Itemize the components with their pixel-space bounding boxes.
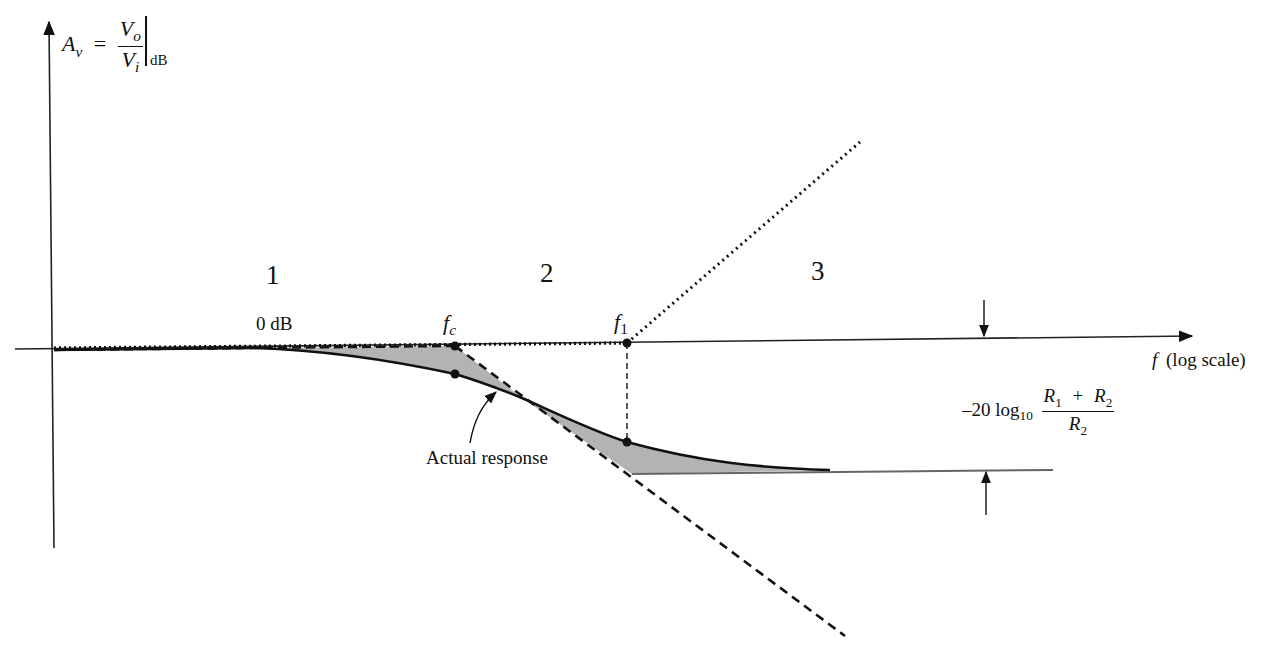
f1-sub: 1 [620,320,628,337]
level-log-base: 10 [1020,408,1033,423]
error-area-right [522,398,830,474]
r2-sub: 2 [1106,395,1113,410]
dotted-asymptote-rising [627,142,860,343]
fc-actual-point [451,370,460,379]
f-symbol: f [1152,349,1157,370]
log-scale-label: (log scale) [1166,349,1246,370]
vo-symbol: V [120,16,133,41]
y-axis [49,22,54,548]
bode-plot-canvas [0,0,1273,664]
f1-point [623,339,632,348]
fc-point [451,342,460,351]
f1-label: f1 [614,311,628,337]
actual-response-pointer [470,392,496,443]
db-unit: dB [150,53,168,68]
level-fraction: R1 + R2 R2 [1042,386,1115,437]
region-2-label: 2 [540,260,554,287]
vi-sub: i [135,58,139,75]
r1-symbol: R [1044,385,1056,406]
equals-sign: = [94,31,106,56]
vi-symbol: V [121,47,134,72]
plus-sign: + [1073,385,1084,406]
region-3-label: 3 [811,258,825,285]
fc-sub: c [449,321,456,338]
r1-sub: 1 [1055,395,1062,410]
region-1-label: 1 [266,262,280,289]
vo-sub: o [133,27,141,44]
fc-label: fc [443,312,456,338]
f1-actual-point [623,438,632,447]
y-axis-label: Av = Vo Vi [62,18,143,75]
evaluation-bar [145,16,147,66]
r2-den-sub: 2 [1080,423,1087,438]
x-axis [15,336,1192,349]
error-area-left [255,346,522,398]
vo-vi-fraction: Vo Vi [118,18,143,75]
dashed-asymptote-falling [455,346,845,636]
r2-den-symbol: R [1069,413,1081,434]
level-prefix: –20 log [962,399,1020,420]
av-sub: v [75,43,82,60]
av-symbol: A [62,31,75,56]
r2-symbol: R [1094,385,1106,406]
zero-db-label: 0 dB [256,314,292,333]
level-formula: –20 log10 R1 + R2 R2 [962,386,1114,437]
actual-response-label: Actual response [426,448,548,467]
x-axis-label: f (log scale) [1152,350,1246,369]
